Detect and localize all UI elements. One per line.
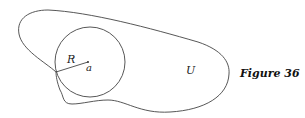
center-label: a <box>86 62 92 73</box>
diagram-canvas <box>0 0 305 118</box>
figure-caption: Figure 36 <box>240 67 300 80</box>
region-label: U <box>186 64 195 77</box>
region-boundary-curve <box>19 10 229 112</box>
radius-label: R <box>67 53 75 66</box>
